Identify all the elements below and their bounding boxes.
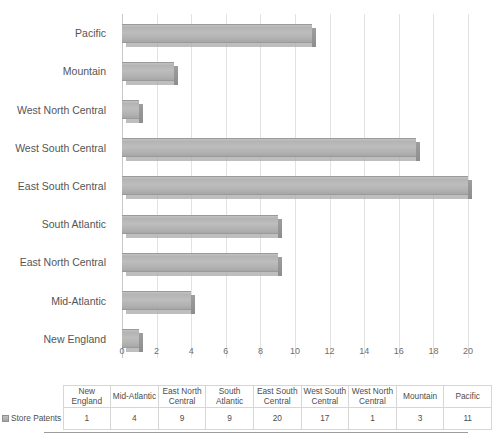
bar-row xyxy=(122,52,468,90)
bar-row xyxy=(122,14,468,52)
table-cell-west-north-central: 1 xyxy=(349,408,397,430)
table-cell-mid-atlantic: 4 xyxy=(111,408,159,430)
table-header-east-south-central: East South Central xyxy=(253,386,301,408)
table-header-mid-atlantic: Mid-Atlantic xyxy=(111,386,159,408)
table-cell-east-south-central: 20 xyxy=(253,408,301,430)
bar-west-north-central[interactable] xyxy=(122,100,139,119)
bar-row xyxy=(122,282,468,320)
bar-mid-atlantic[interactable] xyxy=(122,291,191,310)
table-cell-south-atlantic: 9 xyxy=(206,408,254,430)
table-row: Store Patents 1 4 9 9 20 17 1 3 11 xyxy=(0,408,492,430)
data-table: New England Mid-Atlantic East North Cent… xyxy=(0,385,492,430)
x-axis-tick-16: 16 xyxy=(394,346,404,356)
table-header-new-england: New England xyxy=(63,386,111,408)
y-axis-label-east-north-central: East North Central xyxy=(0,243,114,281)
table-corner-cell xyxy=(0,386,63,408)
legend-swatch-icon xyxy=(2,415,9,422)
x-axis-tick-0: 0 xyxy=(119,346,124,356)
y-axis-category-labels: Pacific Mountain West North Central West… xyxy=(0,14,114,358)
y-axis-label-west-south-central: West South Central xyxy=(0,129,114,167)
table-cell-mountain: 3 xyxy=(396,408,444,430)
table-cell-new-england: 1 xyxy=(63,408,111,430)
y-axis-label-mid-atlantic: Mid-Atlantic xyxy=(0,282,114,320)
plot-wrapper: Pacific Mountain West North Central West… xyxy=(0,14,494,362)
y-axis-label-new-england: New England xyxy=(0,320,114,358)
y-axis-label-mountain: Mountain xyxy=(0,52,114,90)
x-axis-tick-12: 12 xyxy=(325,346,335,356)
bar-pacific[interactable] xyxy=(122,24,312,43)
data-table-wrapper: New England Mid-Atlantic East North Cent… xyxy=(0,385,494,430)
table-header-west-south-central: West South Central xyxy=(301,386,349,408)
table-cell-pacific: 11 xyxy=(444,408,492,430)
bar-east-north-central[interactable] xyxy=(122,253,278,272)
table-header-row: New England Mid-Atlantic East North Cent… xyxy=(0,386,492,408)
y-axis-label-south-atlantic: South Atlantic xyxy=(0,205,114,243)
y-axis-label-west-north-central: West North Central xyxy=(0,90,114,128)
table-header-mountain: Mountain xyxy=(396,386,444,408)
table-header-east-north-central: East North Central xyxy=(158,386,206,408)
x-axis-tick-4: 4 xyxy=(189,346,194,356)
table-header-pacific: Pacific xyxy=(444,386,492,408)
y-axis-label-east-south-central: East South Central xyxy=(0,167,114,205)
x-axis-tick-2: 2 xyxy=(154,346,159,356)
x-axis-tick-labels: 02468101214161820 xyxy=(122,346,468,364)
table-header-west-north-central: West North Central xyxy=(349,386,397,408)
x-axis-tick-6: 6 xyxy=(223,346,228,356)
bar-chart-figure: Pacific Mountain West North Central West… xyxy=(0,0,494,442)
bar-east-south-central[interactable] xyxy=(122,176,468,195)
bar-row xyxy=(122,167,468,205)
table-cell-east-north-central: 9 xyxy=(158,408,206,430)
bar-row xyxy=(122,243,468,281)
x-axis-tick-10: 10 xyxy=(290,346,300,356)
bar-row xyxy=(122,129,468,167)
bar-west-south-central[interactable] xyxy=(122,138,416,157)
table-header-south-atlantic: South Atlantic xyxy=(206,386,254,408)
footer-divider xyxy=(44,432,468,433)
x-axis-tick-20: 20 xyxy=(463,346,473,356)
bar-south-atlantic[interactable] xyxy=(122,215,278,234)
y-axis-label-pacific: Pacific xyxy=(0,14,114,52)
series-label-text: Store Patents xyxy=(11,413,61,423)
x-axis-tick-14: 14 xyxy=(359,346,369,356)
bar-row xyxy=(122,205,468,243)
table-cell-west-south-central: 17 xyxy=(301,408,349,430)
x-axis-tick-8: 8 xyxy=(258,346,263,356)
plot-area xyxy=(122,14,468,358)
bar-row xyxy=(122,90,468,128)
bar-rows xyxy=(122,14,468,358)
x-axis-tick-18: 18 xyxy=(428,346,438,356)
table-series-label-cell: Store Patents xyxy=(0,408,63,430)
bar-mountain[interactable] xyxy=(122,62,174,81)
